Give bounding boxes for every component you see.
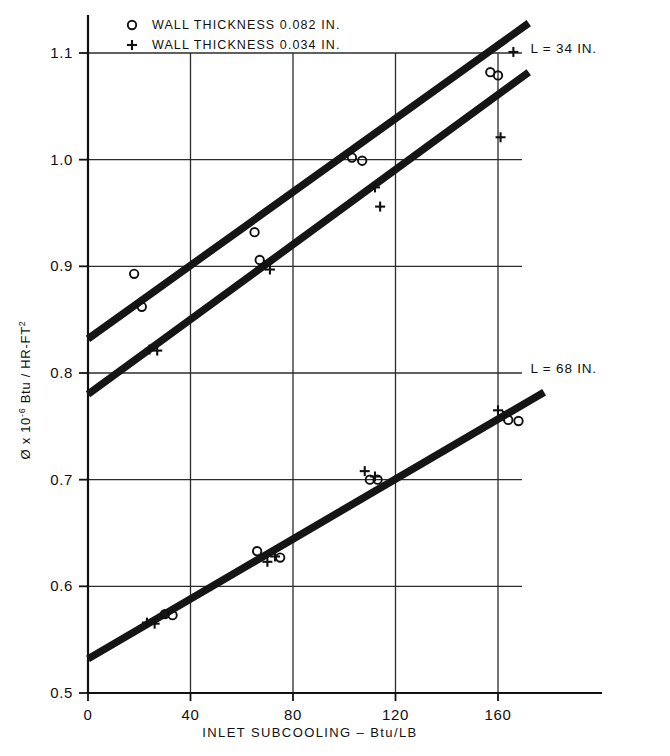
data-point-circle — [255, 256, 263, 264]
x-tick-label: 0 — [84, 706, 93, 723]
x-axis-title: INLET SUBCOOLING – Btu/LB — [202, 725, 417, 740]
data-point-circle — [276, 553, 284, 561]
axes — [88, 15, 602, 693]
y-tick-label: 0.9 — [50, 257, 73, 274]
data-point-circle — [514, 417, 522, 425]
data-point-plus — [496, 132, 506, 142]
data-point-plus — [508, 47, 518, 57]
x-tick-labels: 04080120160 — [84, 706, 512, 723]
y-tick-label: 0.7 — [50, 471, 73, 488]
fit-line-l-34-wall-0-034 — [88, 72, 529, 394]
y-tick-label: 1.1 — [50, 44, 73, 61]
data-point-circle — [348, 153, 356, 161]
data-markers — [130, 47, 523, 629]
fit-lines — [88, 23, 544, 659]
data-point-circle — [250, 228, 258, 236]
y-axis-title-exponent2: 2 — [17, 321, 27, 327]
data-point-circle — [358, 157, 366, 165]
legend-label: WALL THICKNESS 0.082 IN. — [152, 18, 341, 32]
y-axis-title: Ø x 10-6 Btu / HR-FT2 — [17, 321, 33, 460]
y-tick-labels: 0.50.60.70.80.91.01.1 — [50, 44, 73, 701]
scatter-plot: 04080120160 0.50.60.70.80.91.01.1 L = 34… — [0, 0, 670, 756]
y-tick-label: 0.8 — [50, 364, 73, 381]
curve-label: L = 68 IN. — [531, 361, 597, 376]
x-tick-label: 80 — [284, 706, 302, 723]
figure-container: 04080120160 0.50.60.70.80.91.01.1 L = 34… — [0, 0, 670, 756]
data-point-circle — [130, 270, 138, 278]
y-tick-label: 0.6 — [50, 577, 73, 594]
x-tick-label: 120 — [382, 706, 409, 723]
legend-label: WALL THICKNESS 0.034 IN. — [152, 38, 341, 52]
x-tick-label: 40 — [182, 706, 200, 723]
curve-annotations: L = 34 IN.L = 68 IN. — [531, 41, 597, 376]
data-point-plus — [375, 202, 385, 212]
fit-line-l-34-wall-0-082 — [88, 23, 529, 339]
y-axis-title-part2: Btu / HR-FT — [18, 326, 33, 407]
legend-marker-circle — [128, 21, 136, 29]
grid-lines — [88, 53, 522, 693]
y-axis-title-exponent: -6 — [17, 408, 27, 417]
curve-label: L = 34 IN. — [531, 41, 597, 56]
y-axis-title-part1: Ø x 10 — [18, 417, 33, 460]
data-point-plus — [360, 466, 370, 476]
y-tick-label: 1.0 — [50, 151, 73, 168]
fit-line-l-68 — [88, 392, 544, 659]
svg-text:Ø x 10-6 Btu / HR-FT2: Ø x 10-6 Btu / HR-FT2 — [17, 321, 33, 460]
x-tick-label: 160 — [485, 706, 512, 723]
tick-marks — [79, 53, 498, 701]
y-tick-label: 0.5 — [50, 684, 73, 701]
data-point-circle — [253, 547, 261, 555]
legend: WALL THICKNESS 0.082 IN.WALL THICKNESS 0… — [127, 18, 341, 52]
